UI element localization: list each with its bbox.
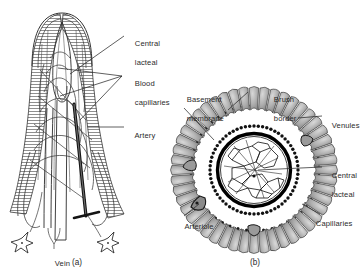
label-central-lacteal-b: Central lacteal: [323, 162, 357, 208]
label-brush-border-b: Brush border: [265, 86, 296, 132]
label-arteriole-b: Arteriole: [176, 213, 214, 241]
label-basement-membrane-b: Basement membrane: [178, 86, 224, 132]
vein-leader-fork: [48, 228, 60, 249]
label-arteriole-b-text: Arteriole: [184, 222, 213, 231]
vessel-cut-bottom: [248, 225, 260, 236]
label-blood-capillaries-a-line1: Blood: [135, 79, 155, 88]
label-brush-border-b-line2: border: [274, 114, 297, 123]
vein-vessel: [44, 108, 53, 228]
label-capillaries-b: Capillaries: [307, 210, 352, 238]
label-artery-a-text: Artery: [134, 131, 155, 140]
label-vein-a-text: Vein: [55, 259, 70, 268]
lacteal-duct-descending: [55, 100, 67, 240]
label-basement-membrane-b-line1: Basement: [187, 95, 222, 104]
label-capillaries-b-text: Capillaries: [316, 219, 353, 228]
label-vein-a: Vein: [46, 250, 70, 277]
panel-b-caption: (b): [250, 258, 260, 267]
label-central-lacteal-a-line2: lacteal: [135, 58, 158, 67]
label-venules-b: Venules: [323, 112, 360, 140]
label-central-lacteal-b-line2: lacteal: [332, 190, 355, 199]
label-artery-a: Artery: [126, 122, 155, 150]
label-blood-capillaries-a-line2: capillaries: [135, 98, 170, 107]
label-venules-b-text: Venules: [332, 121, 360, 130]
label-brush-border-b-line1: Brush: [274, 95, 294, 104]
label-basement-membrane-b-line2: membrane: [187, 114, 224, 123]
panel-a-caption: (a): [72, 258, 82, 267]
label-central-lacteal-a-line1: Central: [135, 39, 160, 48]
label-blood-capillaries-a: Blood capillaries: [126, 70, 170, 116]
central-lacteal-lumen: [252, 174, 255, 177]
panel-a-villus-longitudinal: [10, 13, 124, 253]
label-central-lacteal-b-line1: Central: [332, 171, 357, 180]
terminal-star-right: [88, 216, 119, 253]
